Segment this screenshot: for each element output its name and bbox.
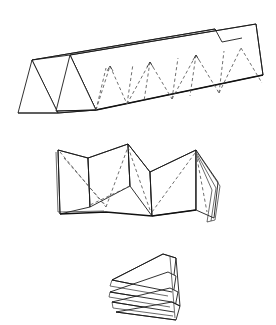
folded-paper-illustration: Folded Paper Structures: [0, 0, 276, 325]
